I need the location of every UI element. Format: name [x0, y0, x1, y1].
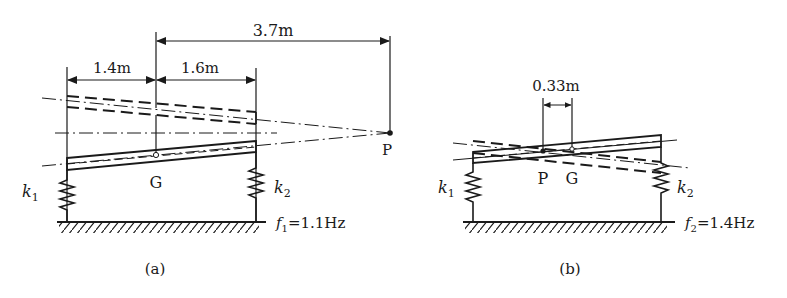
dimension-1-4m-1-6m: 1.4m 1.6m — [67, 59, 256, 222]
dimension-0-33m: 0.33m — [532, 77, 580, 151]
pivot-point-marker-b — [540, 148, 545, 153]
label-p-b: P — [538, 169, 549, 188]
label-k2-b: k2 — [677, 178, 694, 200]
label-g-b: G — [566, 169, 579, 188]
label-k2-a: k2 — [274, 178, 291, 200]
ground-a — [57, 222, 266, 233]
label-0-33m: 0.33m — [532, 77, 580, 95]
figure-b: 0.33m P G k1 k2 — [438, 77, 754, 278]
center-of-gravity-marker-b — [570, 147, 574, 151]
beam-body-b — [473, 135, 661, 163]
vibration-modes-diagram: 3.7m 1.4m 1.6m — [0, 0, 787, 298]
caption-a: (a) — [145, 260, 166, 278]
label-k1-b: k1 — [438, 178, 455, 200]
spring-k2-b — [654, 147, 668, 222]
ground-b — [463, 222, 675, 233]
spring-k1-b — [466, 163, 480, 222]
label-p-a: P — [382, 141, 392, 159]
beam-body — [67, 141, 256, 170]
label-1-6m: 1.6m — [181, 59, 219, 77]
center-of-gravity-marker — [153, 152, 158, 157]
pivot-point-marker — [387, 130, 393, 136]
dimension-3-7m: 3.7m — [156, 21, 390, 133]
label-1-4m: 1.4m — [93, 59, 131, 77]
label-g-a: G — [150, 173, 163, 192]
caption-b: (b) — [559, 260, 580, 278]
figure-a: 3.7m 1.4m 1.6m — [22, 21, 393, 278]
label-3-7m: 3.7m — [253, 21, 294, 40]
frequency-f1: f1=1.1Hz — [275, 214, 345, 234]
label-k1-a: k1 — [22, 182, 39, 204]
frequency-f2: f2=1.4Hz — [684, 214, 754, 234]
